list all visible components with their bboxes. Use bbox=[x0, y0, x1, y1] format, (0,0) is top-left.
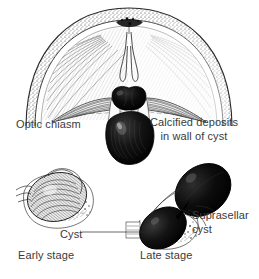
optic-chiasm-mass bbox=[112, 86, 146, 110]
label-late-stage: Late stage bbox=[140, 249, 192, 262]
label-suprasellar-cyst: Suprasellarcyst bbox=[192, 209, 249, 236]
main-suprasellar-cyst bbox=[106, 111, 154, 164]
label-calcified-line1: Calcified deposits bbox=[150, 116, 238, 128]
label-early-stage: Early stage bbox=[18, 249, 74, 262]
anatomical-illustration: Optic chiasm Calcified depositsin wall o… bbox=[0, 0, 259, 279]
label-suprasellar-line2: cyst bbox=[192, 223, 249, 237]
label-cyst: Cyst bbox=[60, 228, 82, 241]
label-optic-chiasm: Optic chiasm bbox=[16, 118, 81, 131]
late-bone-marker bbox=[126, 222, 140, 238]
label-suprasellar-line1: Suprasellar bbox=[192, 209, 249, 221]
label-calcified-line2: in wall of cyst bbox=[150, 130, 238, 144]
label-calcified-deposits: Calcified depositsin wall of cyst bbox=[150, 116, 238, 143]
late-stage-view bbox=[126, 153, 241, 258]
early-stage-view bbox=[16, 166, 93, 229]
